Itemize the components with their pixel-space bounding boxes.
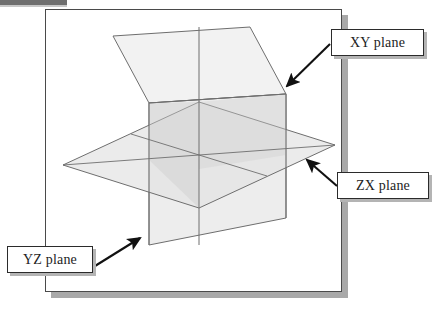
- arrow-zx: [307, 160, 337, 186]
- label-xy-plane: XY plane: [331, 29, 424, 56]
- label-zx-text: ZX plane: [356, 179, 410, 193]
- label-xy-text: XY plane: [350, 36, 405, 50]
- label-yz-text: YZ plane: [23, 253, 77, 267]
- figure-canvas: XY plane ZX plane YZ plane: [0, 0, 432, 315]
- arrow-xy: [287, 44, 330, 86]
- arrow-yz: [95, 238, 140, 266]
- label-zx-plane: ZX plane: [337, 172, 429, 199]
- label-yz-plane: YZ plane: [7, 246, 93, 273]
